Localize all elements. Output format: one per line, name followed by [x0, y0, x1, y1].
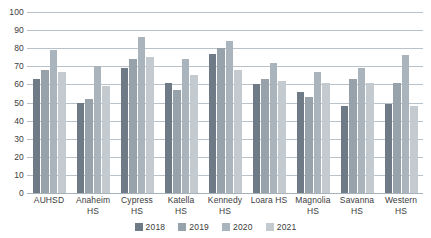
legend-item-2020[interactable]: 2020	[222, 222, 253, 232]
x-axis-label: MagnoliaHS	[291, 195, 335, 217]
x-axis-label-line: Katella	[159, 195, 203, 206]
x-axis-label-line: Savanna	[335, 195, 379, 206]
bar	[410, 106, 418, 193]
legend-item-2019[interactable]: 2019	[178, 222, 209, 232]
bar	[85, 99, 93, 193]
bar-group	[247, 12, 291, 193]
bar	[165, 83, 173, 193]
x-axis-label-line: Kennedy	[203, 195, 247, 206]
chart-legend: 2018201920202021	[0, 222, 431, 232]
x-axis-label-line: HS	[291, 206, 335, 217]
x-axis-label: AnaheimHS	[71, 195, 115, 217]
x-axis-label-line: Western	[379, 195, 423, 206]
bar	[297, 92, 305, 193]
bar-group	[291, 12, 335, 193]
bar	[278, 81, 286, 193]
y-tick-label-60: 60	[14, 79, 24, 89]
y-tick-label-0: 0	[19, 188, 24, 198]
legend-label: 2018	[146, 222, 166, 232]
x-axis-label: WesternHS	[379, 195, 423, 217]
x-axis-label-line: Anaheim	[71, 195, 115, 206]
bar	[305, 97, 313, 193]
legend-label: 2020	[233, 222, 253, 232]
x-axis-label: KatellaHS	[159, 195, 203, 217]
x-axis-label-line: HS	[379, 206, 423, 217]
bar	[322, 83, 330, 193]
bar	[314, 72, 322, 193]
x-axis-label: SavannaHS	[335, 195, 379, 217]
x-axis-label: KennedyHS	[203, 195, 247, 217]
gridline-0	[27, 193, 423, 194]
bar-group	[27, 12, 71, 193]
plot-area	[27, 12, 423, 193]
x-axis-label-line: HS	[203, 206, 247, 217]
bar	[366, 83, 374, 193]
bar	[146, 57, 154, 193]
y-tick-label-50: 50	[14, 98, 24, 108]
bar	[50, 50, 58, 193]
legend-label: 2019	[189, 222, 209, 232]
bar-group	[159, 12, 203, 193]
bar-chart: 0102030405060708090100 AUHSDAnaheimHSCyp…	[0, 0, 431, 238]
x-axis-label-line: Magnolia	[291, 195, 335, 206]
bar	[341, 106, 349, 193]
y-tick-label-90: 90	[14, 25, 24, 35]
y-tick-label-40: 40	[14, 116, 24, 126]
y-tick-label-10: 10	[14, 170, 24, 180]
bar	[138, 37, 146, 193]
bar	[349, 79, 357, 193]
x-axis-label-line: HS	[335, 206, 379, 217]
bar	[217, 48, 225, 193]
bar	[94, 66, 102, 193]
bar	[182, 59, 190, 193]
bar	[393, 83, 401, 193]
bar	[190, 75, 198, 193]
legend-swatch-icon	[266, 223, 274, 231]
x-axis-label-line: HS	[115, 206, 159, 217]
y-tick-label-100: 100	[9, 7, 24, 17]
bar-group	[379, 12, 423, 193]
bar	[226, 41, 234, 193]
x-axis-labels: AUHSDAnaheimHSCypressHSKatellaHSKennedyH…	[27, 195, 423, 217]
bar-group	[203, 12, 247, 193]
y-tick-label-20: 20	[14, 152, 24, 162]
legend-swatch-icon	[178, 223, 186, 231]
legend-item-2021[interactable]: 2021	[266, 222, 297, 232]
bar	[261, 79, 269, 193]
bar	[209, 54, 217, 193]
x-axis-label-line: HS	[159, 206, 203, 217]
x-axis-label-line: HS	[71, 206, 115, 217]
y-tick-label-70: 70	[14, 61, 24, 71]
x-axis-label-line: Loara HS	[247, 195, 291, 206]
bar	[102, 86, 110, 193]
bar	[270, 63, 278, 193]
y-axis-ticks: 0102030405060708090100	[0, 12, 24, 193]
bar	[253, 84, 261, 193]
bar-groups	[27, 12, 423, 193]
legend-swatch-icon	[135, 223, 143, 231]
x-axis-label: Loara HS	[247, 195, 291, 217]
bar-group	[71, 12, 115, 193]
bar	[173, 90, 181, 193]
bar	[121, 68, 129, 193]
x-axis-label: CypressHS	[115, 195, 159, 217]
legend-label: 2021	[277, 222, 297, 232]
bar-group	[115, 12, 159, 193]
bar	[77, 103, 85, 194]
bar	[33, 79, 41, 193]
bar	[234, 70, 242, 193]
bar	[58, 72, 66, 193]
bar-group	[335, 12, 379, 193]
bar	[385, 104, 393, 193]
bar	[129, 59, 137, 193]
x-axis-label-line: AUHSD	[27, 195, 71, 206]
bar	[41, 70, 49, 193]
bar	[358, 68, 366, 193]
legend-item-2018[interactable]: 2018	[135, 222, 166, 232]
y-tick-label-80: 80	[14, 43, 24, 53]
x-axis-label: AUHSD	[27, 195, 71, 217]
y-tick-label-30: 30	[14, 134, 24, 144]
legend-swatch-icon	[222, 223, 230, 231]
bar	[402, 55, 410, 193]
x-axis-label-line: Cypress	[115, 195, 159, 206]
